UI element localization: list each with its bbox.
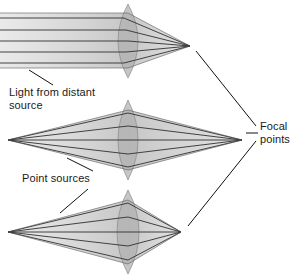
label-point-sources: Point sources [22, 172, 90, 185]
label-light-from-distant-source: Light from distant source [9, 86, 95, 112]
diagram-canvas: Light from distant source Point sources … [0, 0, 299, 275]
label-focal-points: Focal points [260, 120, 290, 146]
incoming-parallel-beam-fill [0, 13, 128, 68]
optics-ray-diagram [0, 0, 299, 275]
